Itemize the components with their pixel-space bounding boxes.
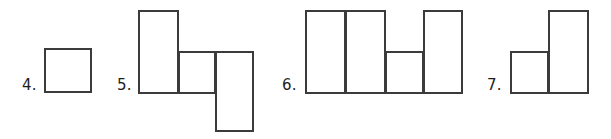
figure-group-7: 7. (0, 0, 611, 139)
worksheet-canvas: 4. 5. 6. 7. (0, 0, 611, 139)
figure-7-tall-rectangle-right (548, 10, 589, 94)
figure-7-square-left (510, 51, 549, 94)
figure-label-7: 7. (487, 78, 502, 93)
